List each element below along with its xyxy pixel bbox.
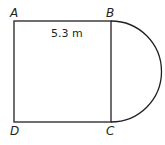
vertex-d-label: D [10,124,19,138]
figure: A B C D 5.3 m [0,0,165,145]
side-length-label: 5.3 m [51,27,83,40]
vertex-a-label: A [9,6,18,20]
vertex-c-label: C [106,124,115,138]
semicircle [111,21,162,122]
vertex-b-label: B [106,6,114,20]
